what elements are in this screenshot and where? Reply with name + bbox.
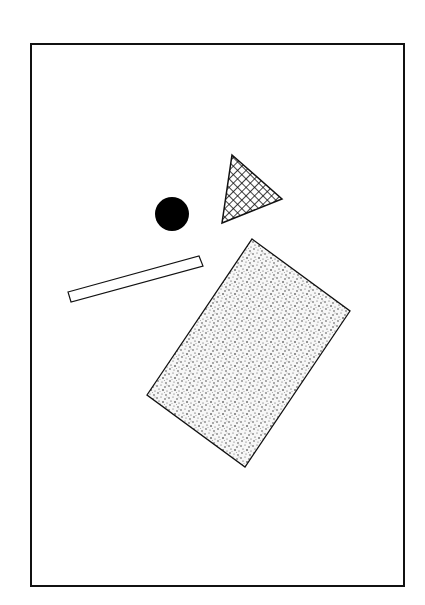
black-circle [155, 197, 189, 231]
crosshatched-triangle [222, 155, 282, 223]
thin-white-bar [68, 256, 203, 302]
geometric-figure [0, 0, 425, 605]
